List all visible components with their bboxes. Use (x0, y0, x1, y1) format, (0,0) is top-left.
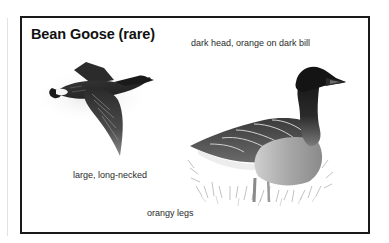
page-margin-rule (7, 18, 8, 236)
bean-goose-standing-illustration (22, 18, 368, 232)
field-guide-plate: Bean Goose (rare) dark head, orange on d… (20, 16, 370, 234)
